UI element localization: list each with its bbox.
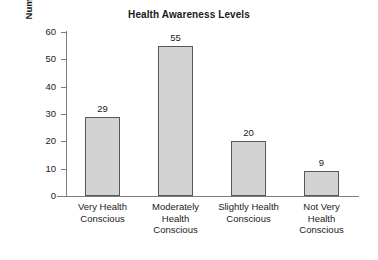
y-axis-tick-label: 0 bbox=[16, 191, 56, 201]
x-axis-category-label: Very HealthConscious bbox=[62, 201, 143, 224]
x-axis-label-line: Not Very bbox=[281, 201, 362, 213]
y-axis-tick-label: 10 bbox=[16, 164, 56, 174]
chart-title: Health Awareness Levels bbox=[0, 9, 378, 20]
bar-value-label: 20 bbox=[229, 128, 269, 138]
x-axis-category-label: ModeratelyHealthConscious bbox=[135, 201, 216, 236]
plot-area bbox=[66, 32, 358, 196]
x-axis-line bbox=[57, 196, 359, 197]
y-axis-tick-label: 50 bbox=[16, 54, 56, 64]
bar bbox=[158, 46, 193, 196]
x-axis-label-line: Conscious bbox=[62, 213, 143, 225]
x-axis-label-line: Health bbox=[135, 213, 216, 225]
y-axis-tick bbox=[61, 196, 66, 197]
x-axis-label-line: Conscious bbox=[208, 213, 289, 225]
y-axis-tick-label: 40 bbox=[16, 82, 56, 92]
bar-value-label: 9 bbox=[302, 158, 342, 168]
x-axis-label-line: Health bbox=[281, 213, 362, 225]
bar bbox=[231, 141, 266, 196]
x-axis-category-label: Not VeryHealthConscious bbox=[281, 201, 362, 236]
y-axis-tick-label: 20 bbox=[16, 136, 56, 146]
bar-value-label: 55 bbox=[156, 33, 196, 43]
x-axis-label-line: Slightly Health bbox=[208, 201, 289, 213]
x-axis-label-line: Conscious bbox=[281, 224, 362, 236]
y-axis-tick-label: 60 bbox=[16, 27, 56, 37]
y-axis-tick-label: 30 bbox=[16, 109, 56, 119]
x-axis-label-line: Very Health bbox=[62, 201, 143, 213]
bar-chart: Health Awareness Levels Number of Studen… bbox=[0, 0, 378, 260]
x-axis-category-label: Slightly HealthConscious bbox=[208, 201, 289, 224]
bar-value-label: 29 bbox=[83, 104, 123, 114]
bar bbox=[304, 171, 339, 196]
x-axis-label-line: Moderately bbox=[135, 201, 216, 213]
bar bbox=[85, 117, 120, 196]
x-axis-label-line: Conscious bbox=[135, 224, 216, 236]
